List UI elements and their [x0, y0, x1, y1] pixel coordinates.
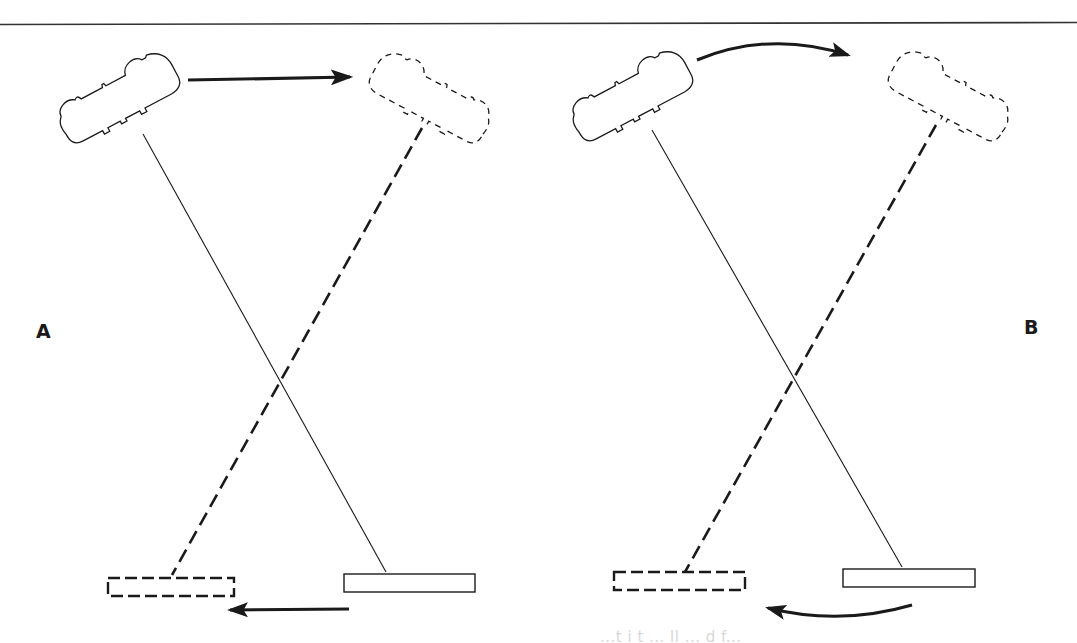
top-rule	[0, 23, 1077, 25]
camera-move-arrow	[188, 77, 350, 80]
sightline-end	[685, 125, 936, 572]
subject-end-rect	[614, 572, 745, 590]
diagram-svg	[0, 0, 1077, 643]
caption-bleedthrough: ...t i t ... ll ... d f...	[600, 628, 742, 643]
camera-arc-arrow	[697, 44, 848, 60]
panel-label-b: B	[1024, 318, 1038, 337]
camera-end-icon	[363, 45, 499, 151]
camera-start-icon	[49, 45, 185, 151]
camera-start-icon	[562, 43, 698, 149]
subject-start-rect	[344, 574, 475, 592]
subject-start-rect	[843, 569, 975, 587]
sightline-start	[652, 130, 902, 567]
subject-arc-arrow	[768, 605, 912, 616]
figure-canvas	[0, 0, 1077, 643]
camera-end-icon	[882, 43, 1018, 149]
panel-label-a: A	[36, 322, 51, 341]
panel-a	[49, 45, 500, 610]
sightline-end	[172, 128, 422, 575]
subject-end-rect	[108, 578, 234, 596]
subject-move-arrow	[230, 609, 349, 610]
panel-b	[562, 43, 1019, 617]
sightline-start	[143, 134, 386, 572]
